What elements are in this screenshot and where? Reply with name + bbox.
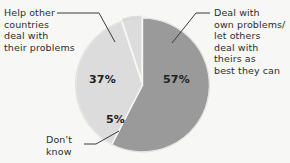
callout-label-dont-know: Don't know xyxy=(46,134,72,157)
slice-percent-help-other-countries: 37% xyxy=(89,73,116,86)
pie-chart: Help other countries deal with their pro… xyxy=(0,0,290,163)
slice-percent-deal-own-problems: 57% xyxy=(163,73,190,86)
slice-percent-dont-know: 5% xyxy=(106,113,125,126)
callout-label-deal-own-problems: Deal with own problems/ let others deal … xyxy=(214,7,285,77)
callout-label-help-other-countries: Help other countries deal with their pro… xyxy=(4,7,75,53)
